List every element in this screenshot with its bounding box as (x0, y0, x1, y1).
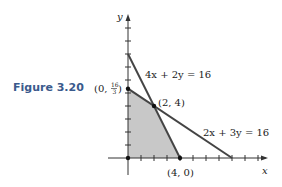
point-4-0 (178, 156, 182, 160)
point-origin (126, 156, 130, 160)
eq2-label: 2x + 3y = 16 (203, 127, 269, 138)
point-0-16-3-den: 3 (113, 88, 117, 95)
eq1-label: 4x + 2y = 16 (145, 69, 211, 80)
y-axis-label: y (116, 11, 123, 22)
point-0-16-3 (126, 87, 130, 91)
point-0-16-3-label-suffix: ) (118, 83, 122, 94)
point-2-4 (152, 104, 156, 108)
x-axis-arrow (261, 156, 268, 161)
y-axis-arrow (126, 14, 131, 21)
x-axis-label: x (262, 165, 268, 176)
chart: y x 4x + 2y = 16 2x + 3y = 16 (2, 4) (4,… (0, 0, 282, 187)
point-2-4-label: (2, 4) (158, 97, 185, 108)
point-4-0-label: (4, 0) (167, 167, 194, 178)
point-0-16-3-label-prefix: (0, (94, 83, 107, 94)
